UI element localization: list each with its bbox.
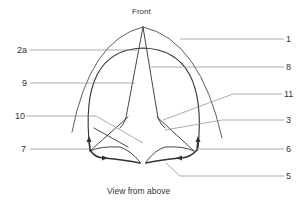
label-6: 6 [286,145,291,154]
arrow-up-right [196,136,201,142]
label-3: 3 [286,116,291,125]
inner-circle [88,48,199,150]
central-spike [120,27,165,128]
bottom-right-curve [146,150,197,163]
label-11: 11 [284,90,293,99]
label-7: 7 [21,145,26,154]
label-9: 9 [22,79,27,88]
leader-11-diag [163,94,233,120]
bottom-left-curve [90,150,140,163]
label-1: 1 [286,35,291,44]
label-5: 5 [286,172,291,181]
leader-5 [166,163,284,176]
diagram-drawing [0,0,304,203]
arrow-up-left [87,136,92,142]
front-label: Front [132,8,151,16]
left-wing-fold [94,128,128,147]
label-8: 8 [286,63,291,72]
arrow-right-bottom-left [102,156,108,161]
ski-view-from-above-diagram: Front 1 2a 8 9 11 10 3 7 6 5 View from a… [0,0,304,203]
view-caption: View from above [107,187,170,196]
label-2a: 2a [17,46,27,55]
right-wing [146,117,194,162]
label-10: 10 [15,112,25,121]
arrow-left-bottom-right [176,156,182,161]
leader-3 [165,120,284,130]
